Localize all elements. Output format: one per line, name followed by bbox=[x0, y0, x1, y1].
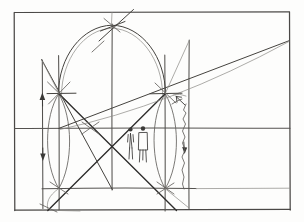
construction-marks-group bbox=[42, 13, 189, 209]
diagonal-left-steep bbox=[42, 60, 113, 190]
diagonal-rising-companion-curve bbox=[60, 42, 289, 130]
node-spring-left bbox=[47, 82, 76, 104]
sketch-canvas: Arch and Square Proportional Study bbox=[0, 0, 304, 222]
scale-figure-right-head bbox=[141, 126, 145, 130]
architectural-sketch-drawing: Arch and Square Proportional Study bbox=[0, 0, 304, 222]
construction-left-brace bbox=[42, 61, 59, 94]
freehand-marks-group bbox=[60, 94, 187, 211]
dimension-arrow-left-lower-head bbox=[40, 154, 46, 162]
vertical-rules-group bbox=[42, 24, 189, 211]
diagonal-lower-left-to-upper-right bbox=[48, 93, 166, 210]
dimension-arrow-left-upper bbox=[40, 93, 46, 107]
center-axis-above-apex bbox=[112, 13, 113, 25]
page-border-rectangle bbox=[14, 12, 290, 211]
frame-left-edge bbox=[14, 13, 15, 211]
construction-right-brace bbox=[165, 41, 189, 94]
scale-figure-right bbox=[138, 126, 147, 162]
scale-figure-right-torso bbox=[138, 133, 147, 150]
mid-rule bbox=[15, 128, 291, 129]
construction-right-base-brace bbox=[165, 189, 189, 209]
left-lens-arc-outer bbox=[48, 94, 59, 189]
scale-figure-left-head bbox=[128, 127, 132, 131]
left-pier-line bbox=[59, 56, 60, 211]
apex-ray-stub bbox=[92, 41, 104, 52]
freehand-tick-right bbox=[173, 94, 186, 96]
frame-top-edge bbox=[15, 12, 290, 13]
dimension-arrow-left-upper-head bbox=[40, 93, 46, 101]
node-spring-right bbox=[150, 83, 182, 103]
left-lens-tail bbox=[47, 188, 59, 210]
lower-rule bbox=[42, 188, 196, 189]
right-lens-arc-outer bbox=[165, 94, 176, 189]
wobble-line-right-pier bbox=[182, 104, 186, 189]
right-lens-arc-inner bbox=[154, 94, 165, 189]
diagonal-rising-to-right-edge bbox=[59, 41, 290, 129]
scale-figure-left-legs bbox=[129, 148, 133, 159]
baseline-scuff-left bbox=[60, 211, 81, 212]
horizontal-rules-group bbox=[15, 128, 291, 189]
scale-figure-left bbox=[128, 127, 134, 159]
frame-bottom-edge bbox=[15, 209, 290, 210]
scale-figure-left-body bbox=[130, 134, 132, 149]
frame-right-edge bbox=[290, 12, 291, 210]
scale-figures-group bbox=[128, 126, 148, 162]
left-column-line bbox=[42, 60, 43, 209]
dimension-arrow-left-lower bbox=[40, 148, 46, 161]
